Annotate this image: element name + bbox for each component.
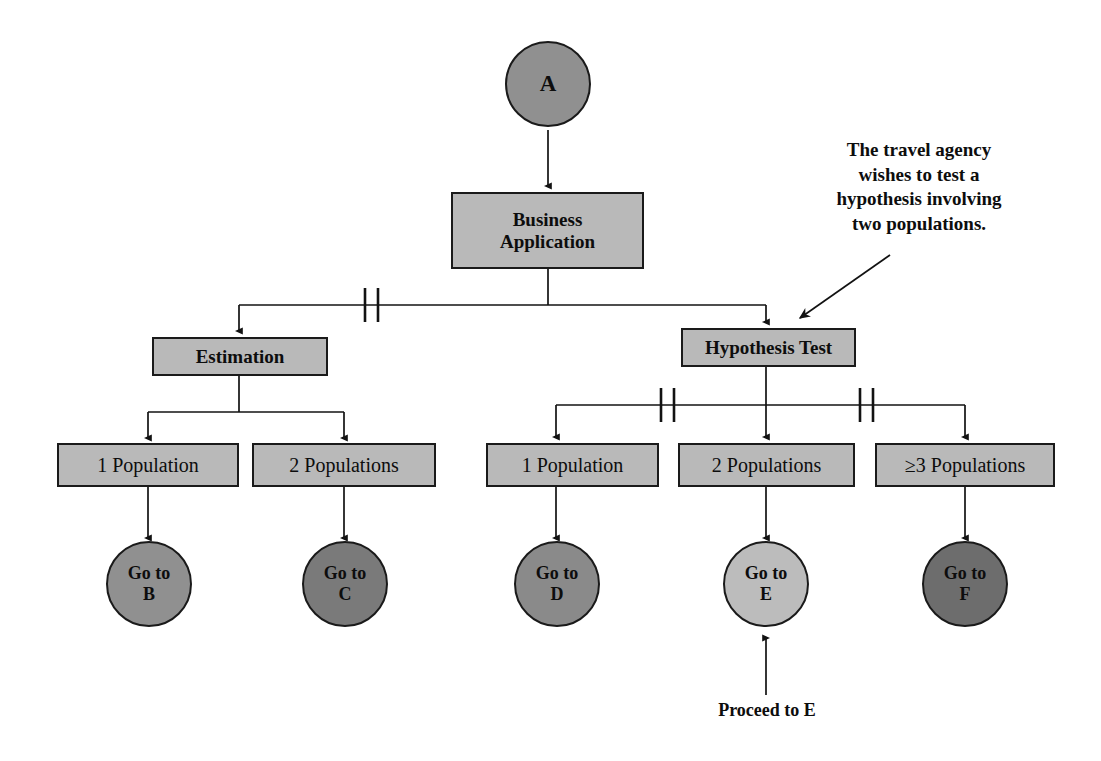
node-goto-e-label-line2: E (745, 584, 788, 605)
break-mark-ht-left (661, 388, 674, 422)
node-estimation-label: Estimation (196, 346, 285, 367)
node-goto-f-label-line1: Go to (944, 563, 987, 584)
break-mark-ht-right (860, 388, 873, 422)
node-estimation-2-populations[interactable]: 2 Populations (252, 443, 436, 487)
node-hypothesis-test-label: Hypothesis Test (705, 337, 832, 358)
flowchart-canvas: A Business Application Estimation Hypoth… (0, 0, 1101, 761)
node-hypothesis-3-populations[interactable]: ≥3 Populations (875, 443, 1055, 487)
node-goto-d-label-line2: D (536, 584, 579, 605)
node-estimation-1-population[interactable]: 1 Population (57, 443, 239, 487)
node-business-application-label-line1: Business (500, 209, 595, 230)
annotation-proceed-to-e: Proceed to E (672, 700, 862, 721)
node-goto-c-label-line1: Go to (324, 563, 367, 584)
annotation-travel-agency: The travel agency wishes to test a hypot… (790, 138, 1048, 237)
node-goto-b-label-line2: B (128, 584, 171, 605)
node-goto-d-label-line1: Go to (536, 563, 579, 584)
node-business-application-label-line2: Application (500, 231, 595, 252)
node-hypothesis-2-populations-label: 2 Populations (712, 454, 821, 476)
node-estimation-2-populations-label: 2 Populations (289, 454, 398, 476)
node-goto-e-label-line1: Go to (745, 563, 788, 584)
node-hypothesis-1-population-label: 1 Population (522, 454, 624, 476)
node-business-application[interactable]: Business Application (451, 192, 644, 269)
node-hypothesis-2-populations[interactable]: 2 Populations (678, 443, 855, 487)
node-hypothesis-test[interactable]: Hypothesis Test (681, 328, 856, 367)
node-goto-b-label-line1: Go to (128, 563, 171, 584)
node-a[interactable]: A (505, 41, 591, 127)
node-goto-d[interactable]: Go to D (514, 541, 600, 627)
node-goto-c[interactable]: Go to C (302, 541, 388, 627)
node-hypothesis-1-population[interactable]: 1 Population (486, 443, 659, 487)
annotation-travel-agency-line3: hypothesis involving (790, 187, 1048, 212)
node-goto-e[interactable]: Go to E (723, 541, 809, 627)
node-goto-b[interactable]: Go to B (106, 541, 192, 627)
annotation-travel-agency-line2: wishes to test a (790, 163, 1048, 188)
node-estimation[interactable]: Estimation (152, 337, 328, 376)
break-mark-main-split (365, 288, 378, 322)
node-goto-f-label-line2: F (944, 584, 987, 605)
node-goto-f[interactable]: Go to F (922, 541, 1008, 627)
annotation-proceed-to-e-text: Proceed to E (718, 700, 816, 720)
annotation-travel-agency-line1: The travel agency (790, 138, 1048, 163)
node-hypothesis-3-populations-label: ≥3 Populations (905, 454, 1025, 476)
node-estimation-1-population-label: 1 Population (97, 454, 199, 476)
annotation-arrow-top-right (800, 255, 890, 318)
node-a-label: A (540, 71, 557, 97)
node-goto-c-label-line2: C (324, 584, 367, 605)
annotation-travel-agency-line4: two populations. (790, 212, 1048, 237)
